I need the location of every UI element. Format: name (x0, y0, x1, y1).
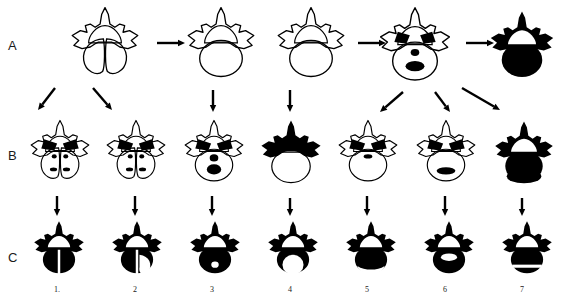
vertebra-B3 (178, 118, 250, 192)
vertebra-A3 (268, 6, 354, 88)
column-number-2: 2 (128, 285, 142, 294)
arrow-A4-to-A5 (456, 33, 504, 53)
column-number-7: 7 (515, 285, 529, 294)
column-number-3: 3 (205, 285, 219, 294)
arrow-B1-to-C1 (47, 186, 67, 226)
vertebra-B2 (100, 118, 172, 192)
arrow-A3-to-A4 (348, 33, 396, 53)
vertebra-C5 (336, 220, 406, 282)
vertebra-A1 (62, 6, 148, 88)
vertebra-C4 (258, 220, 328, 282)
vertebra-development-figure: ABC 1.234567 (0, 0, 567, 297)
arrow-B3-to-C3 (202, 186, 222, 226)
row-label-a: A (8, 38, 17, 53)
row-label-c: C (8, 250, 18, 265)
arrow-B4-to-C4 (280, 188, 300, 226)
vertebra-B4 (254, 118, 328, 194)
arrow-A4-to-B5 (370, 82, 413, 122)
column-number-5: 5 (360, 285, 374, 294)
vertebra-C2 (102, 220, 172, 282)
vertebra-C1 (24, 220, 94, 282)
arrow-A1-to-B1 (28, 78, 65, 120)
column-number-6: 6 (438, 285, 452, 294)
arrow-A2-to-B3 (203, 80, 223, 122)
column-number-4: 4 (283, 285, 297, 294)
row-label-b: B (8, 148, 17, 163)
arrow-A4-to-B7 (452, 78, 510, 120)
vertebra-B5 (332, 118, 404, 192)
arrow-A3-to-B4 (280, 80, 300, 122)
arrow-A1-to-A2 (147, 33, 195, 53)
column-number-1: 1. (50, 285, 64, 294)
vertebra-B7 (488, 118, 560, 194)
arrow-B5-to-C5 (357, 186, 377, 226)
arrow-B6-to-C6 (435, 186, 455, 226)
arrow-A1-to-B2 (83, 78, 122, 120)
vertebra-B1 (24, 118, 96, 192)
vertebra-C7 (492, 220, 562, 282)
vertebra-C6 (414, 220, 484, 282)
arrow-B7-to-C7 (512, 188, 532, 226)
arrow-B2-to-C2 (125, 186, 145, 226)
vertebra-B6 (410, 118, 482, 192)
vertebra-C3 (180, 220, 250, 282)
